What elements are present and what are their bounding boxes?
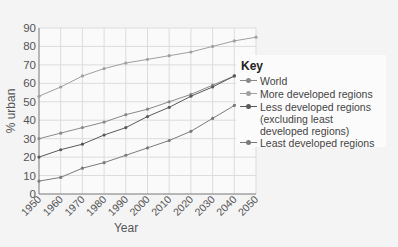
- legend-marker-icon: [246, 78, 251, 83]
- data-point-marker: [168, 139, 171, 142]
- data-point-marker: [211, 85, 214, 88]
- data-point-marker: [59, 176, 62, 179]
- y-tick-label: 10: [23, 170, 36, 182]
- data-point-marker: [146, 115, 149, 118]
- x-axis-label: Year: [114, 221, 138, 235]
- data-point-marker: [59, 85, 62, 88]
- x-tick-label: 1980: [84, 193, 109, 218]
- x-tick-label: 2030: [192, 193, 217, 218]
- data-point-marker: [124, 126, 127, 129]
- data-point-marker: [124, 154, 127, 157]
- data-point-marker: [211, 45, 214, 48]
- data-point-marker: [59, 148, 62, 151]
- data-point-marker: [211, 117, 214, 120]
- y-tick-label: 30: [23, 133, 36, 145]
- data-point-marker: [103, 133, 106, 136]
- legend-marker-icon: [246, 91, 251, 96]
- data-point-marker: [124, 113, 127, 116]
- legend: Key World More developed regions Less de…: [236, 55, 386, 147]
- data-point-marker: [146, 108, 149, 111]
- y-tick-label: 50: [23, 96, 36, 108]
- data-point-marker: [254, 36, 257, 39]
- x-tick-label: 2020: [170, 193, 195, 218]
- x-tick-label: 1960: [40, 193, 65, 218]
- data-point-marker: [37, 95, 40, 98]
- x-tick-label: 2040: [214, 193, 239, 218]
- data-point-marker: [146, 146, 149, 149]
- data-point-marker: [37, 179, 40, 182]
- x-tick-label: 1990: [105, 193, 130, 218]
- legend-marker-icon: [246, 104, 251, 109]
- data-point-marker: [189, 50, 192, 53]
- data-point-marker: [81, 143, 84, 146]
- x-tick-label: 1970: [62, 193, 87, 218]
- data-point-marker: [37, 156, 40, 159]
- data-point-marker: [168, 54, 171, 57]
- legend-title: Key: [241, 59, 263, 73]
- data-point-marker: [124, 61, 127, 64]
- data-point-marker: [103, 120, 106, 123]
- y-tick-label: 90: [23, 22, 36, 34]
- x-tick-label: 1950: [18, 193, 43, 218]
- data-point-marker: [103, 67, 106, 70]
- x-tick-label: 2010: [149, 193, 174, 218]
- y-tick-label: 60: [23, 77, 36, 89]
- y-tick-label: 20: [23, 151, 36, 163]
- y-axis-label: % urban: [4, 89, 18, 134]
- x-tick-label: 2000: [127, 193, 152, 218]
- y-axis-ticks: 0102030405060708090: [23, 22, 36, 200]
- data-point-marker: [59, 132, 62, 135]
- data-point-marker: [81, 126, 84, 129]
- data-point-marker: [81, 167, 84, 170]
- data-point-marker: [168, 106, 171, 109]
- legend-marker-icon: [246, 140, 251, 145]
- x-tick-label: 2050: [235, 193, 260, 218]
- x-axis-ticks: 1950196019701980199020002010202020302040…: [18, 193, 260, 218]
- data-point-marker: [37, 137, 40, 140]
- data-point-marker: [81, 74, 84, 77]
- grid-lines: [39, 28, 256, 194]
- data-point-marker: [146, 58, 149, 61]
- y-tick-label: 80: [23, 40, 36, 52]
- data-point-marker: [189, 95, 192, 98]
- y-tick-label: 40: [23, 114, 36, 126]
- y-tick-label: 70: [23, 59, 36, 71]
- data-point-marker: [189, 130, 192, 133]
- data-point-marker: [233, 39, 236, 42]
- data-point-marker: [103, 161, 106, 164]
- data-point-marker: [168, 100, 171, 103]
